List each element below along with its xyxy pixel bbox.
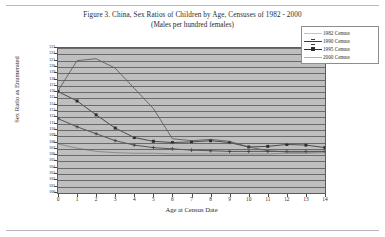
legend-item-label: 1995 Census xyxy=(323,46,350,52)
y-axis-title: Sex Ratio as Enumerated xyxy=(13,35,20,145)
x-axis-tick-label: 2 xyxy=(95,196,98,202)
gridline xyxy=(58,98,325,99)
x-axis-tick-label: 0 xyxy=(57,196,60,202)
gridline xyxy=(58,80,325,81)
gridline xyxy=(58,86,325,87)
x-axis-tick-label: 8 xyxy=(209,196,212,202)
gridline xyxy=(58,130,325,131)
gridline xyxy=(58,61,325,62)
page-rule-bottom xyxy=(6,230,379,231)
legend-key-icon xyxy=(303,37,323,45)
gridline xyxy=(58,124,325,125)
chart-legend[interactable]: 1982 Census1990 Census1995 Census2000 Ce… xyxy=(301,26,379,64)
gridline xyxy=(58,73,325,74)
x-axis-tick-label: 10 xyxy=(246,196,251,202)
legend-item-label: 2000 Census xyxy=(323,54,350,60)
gridline xyxy=(58,117,325,118)
legend-item[interactable]: 2000 Census xyxy=(303,53,376,61)
figure-page: Figure 3. China, Sex Ratios of Children … xyxy=(0,0,385,237)
gridline xyxy=(58,105,325,106)
plot-area xyxy=(57,47,326,194)
x-axis-tick-label: 12 xyxy=(284,196,289,202)
gridline xyxy=(58,168,325,169)
x-axis-tick-label: 1 xyxy=(76,196,79,202)
x-axis-tick-label: 5 xyxy=(152,196,155,202)
x-axis-tick-label: 11 xyxy=(265,196,270,202)
gridline xyxy=(58,187,325,188)
gridline xyxy=(58,54,325,55)
x-axis-tick-label: 14 xyxy=(322,196,327,202)
gridline xyxy=(58,92,325,93)
x-axis-tick-labels: 01234567891011121314 xyxy=(57,196,326,206)
gridline xyxy=(58,149,325,150)
gridline xyxy=(58,161,325,162)
legend-item[interactable]: 1995 Census xyxy=(303,45,376,53)
gridline xyxy=(58,111,325,112)
x-axis-tick-label: 3 xyxy=(114,196,117,202)
x-axis-title: Age at Census Date xyxy=(57,206,326,213)
page-rule-top xyxy=(6,5,379,6)
x-axis-tick-label: 7 xyxy=(190,196,193,202)
legend-key-icon xyxy=(303,53,323,61)
gridline xyxy=(58,180,325,181)
legend-item-label: 1990 Census xyxy=(323,38,350,44)
gridline xyxy=(58,48,325,49)
plot-background xyxy=(57,47,326,194)
gridline xyxy=(58,143,325,144)
gridline xyxy=(58,155,325,156)
x-axis-tick-label: 9 xyxy=(228,196,231,202)
legend-item-label: 1982 Census xyxy=(323,30,350,36)
figure-title: Figure 3. China, Sex Ratios of Children … xyxy=(0,10,385,20)
legend-key-icon xyxy=(303,45,323,53)
legend-item[interactable]: 1982 Census xyxy=(303,29,376,37)
gridline xyxy=(58,174,325,175)
x-axis-tick-label: 13 xyxy=(303,196,308,202)
legend-item[interactable]: 1990 Census xyxy=(303,37,376,45)
legend-key-icon xyxy=(303,29,323,37)
gridlines xyxy=(58,48,325,193)
gridline xyxy=(58,136,325,137)
x-axis-tick-label: 4 xyxy=(133,196,136,202)
x-axis-tick-label: 6 xyxy=(171,196,174,202)
gridline xyxy=(58,67,325,68)
